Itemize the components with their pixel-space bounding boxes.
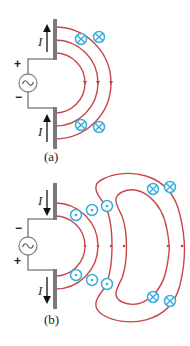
- b-field-out-of-page-icons-b: [71, 201, 113, 290]
- antenna-top-rod-b: [53, 183, 57, 220]
- source-bottom-sign-b: +: [14, 254, 21, 268]
- current-label-top-b: I: [37, 193, 43, 208]
- dipole-antenna-diagram: + − I I (a): [0, 0, 190, 346]
- source-bottom-sign-a: −: [15, 90, 22, 104]
- antenna-bottom-rod-a: [53, 107, 57, 149]
- panel-label-b: (b): [44, 312, 59, 327]
- current-label-bottom-a: I: [37, 124, 43, 139]
- b-field-into-page-icons-b: [148, 182, 176, 307]
- panel-b: − + I I (b): [14, 173, 185, 327]
- source-top-sign-a: +: [14, 57, 21, 71]
- antenna-top-rod-a: [53, 19, 57, 60]
- ac-source-icon: [19, 237, 37, 255]
- field-direction-arrows-b: [84, 245, 184, 248]
- field-direction-arrows-a: [83, 81, 113, 85]
- antenna-bottom-rod-b: [53, 269, 57, 309]
- current-label-top-a: I: [37, 34, 43, 49]
- current-label-bottom-b: I: [37, 283, 43, 298]
- panel-label-a: (a): [44, 149, 58, 164]
- source-top-sign-b: −: [15, 221, 22, 235]
- panel-a: + − I I (a): [14, 19, 113, 164]
